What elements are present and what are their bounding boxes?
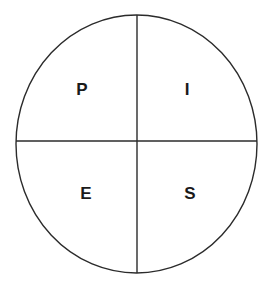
quadrant-label-top-left: P [76, 81, 87, 98]
quartered-circle-diagram [0, 0, 274, 289]
quadrant-label-bottom-left: E [80, 185, 91, 202]
quadrant-label-bottom-right: S [184, 185, 195, 202]
diagram-canvas: P I E S [0, 0, 274, 289]
quadrant-label-top-right: I [185, 81, 190, 98]
